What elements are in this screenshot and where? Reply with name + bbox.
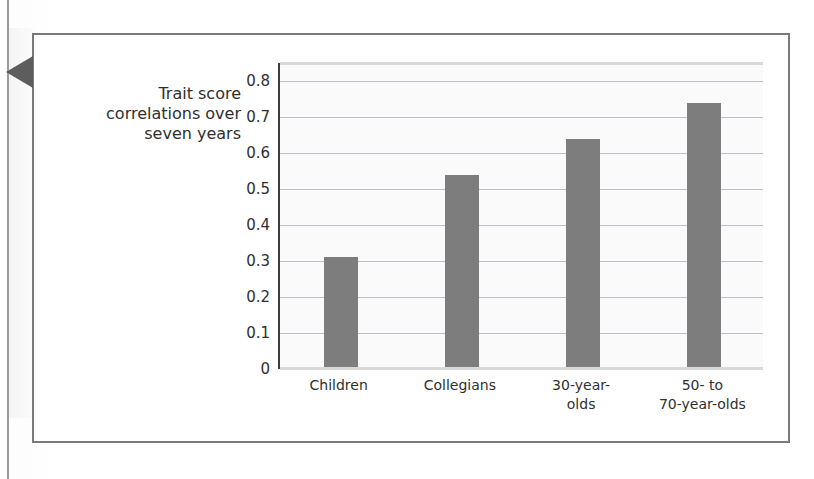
x-label-collegians: Collegians: [399, 376, 520, 395]
x-axis-category-labels: ChildrenCollegians30-year-olds50- to70-y…: [278, 376, 763, 436]
y-tick-label: 0.5: [230, 180, 270, 198]
y-tick-label: 0.1: [230, 324, 270, 342]
x-label-line: olds: [521, 395, 642, 414]
x-label-line: 50- to: [642, 376, 763, 395]
y-axis-tick-labels: 00.10.20.30.40.50.60.70.8: [226, 63, 270, 369]
bar-30-year-olds: [566, 139, 600, 369]
chart-title-line-1: Trait score: [86, 84, 241, 104]
bar-children: [324, 257, 358, 369]
chart-bars: [280, 63, 763, 369]
x-label-children: Children: [278, 376, 399, 395]
y-tick-label: 0.4: [230, 216, 270, 234]
y-tick-label: 0.6: [230, 144, 270, 162]
chart-plot-area: [278, 63, 763, 369]
y-tick-label: 0.3: [230, 252, 270, 270]
x-label-line: 30-year-: [521, 376, 642, 395]
x-label-50-to-70-year-olds: 50- to70-year-olds: [642, 376, 763, 414]
y-tick-label: 0.7: [230, 108, 270, 126]
x-label-line: 70-year-olds: [642, 395, 763, 414]
bar-50-to-70-year-olds: [687, 103, 721, 369]
left-arrow-marker-icon: [6, 56, 33, 88]
chart-title: Trait scorecorrelations overseven years: [86, 84, 241, 144]
x-label-line: Collegians: [399, 376, 520, 395]
chart-title-line-2: correlations over: [86, 104, 241, 124]
chart-plot-wrapper: [278, 63, 763, 369]
x-label-30-year-olds: 30-year-olds: [521, 376, 642, 414]
y-tick-label: 0: [230, 360, 270, 378]
bar-collegians: [445, 175, 479, 369]
chart-title-line-3: seven years: [86, 124, 241, 144]
y-tick-label: 0.8: [230, 72, 270, 90]
y-tick-label: 0.2: [230, 288, 270, 306]
x-label-line: Children: [278, 376, 399, 395]
